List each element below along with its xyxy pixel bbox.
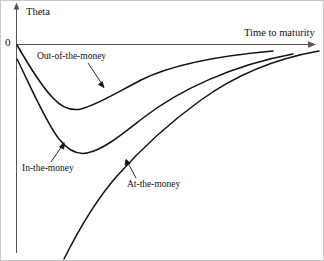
- leader-out-of-the-money: [88, 63, 102, 84]
- leader-at-the-money: [128, 163, 136, 178]
- origin-label: 0: [5, 37, 11, 48]
- leader-in-the-money: [51, 146, 62, 162]
- y-axis-title: Theta: [26, 7, 50, 18]
- y-axis-arrowhead: [14, 3, 20, 10]
- curves-group: [17, 45, 319, 259]
- series-label-out-of-the-money: Out-of-the-money: [37, 52, 106, 62]
- x-axis-arrowhead: [308, 41, 316, 47]
- chart-canvas: [1, 1, 324, 261]
- theta-vs-time-to-maturity-chart: Theta Time to maturity 0 Out-of-the-mone…: [0, 0, 324, 261]
- leader-arrowhead-at-the-money: [125, 160, 130, 166]
- x-axis-title: Time to maturity: [244, 28, 315, 39]
- series-label-in-the-money: In-the-money: [22, 164, 74, 174]
- annotation-leaders-group: [51, 63, 136, 178]
- series-label-at-the-money: At-the-money: [127, 180, 180, 190]
- leader-arrowhead-out-of-the-money: [99, 82, 105, 88]
